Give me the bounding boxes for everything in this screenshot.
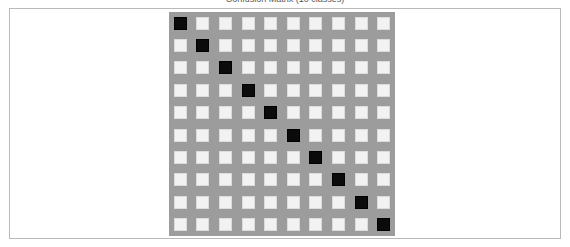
matrix-cell [196,151,209,164]
matrix-cell [242,61,255,74]
figure-caption-clip: Confusion Matrix (10 classes) [0,0,570,6]
matrix-cell [309,129,322,142]
matrix-cell [287,39,300,52]
matrix-cell [309,196,322,209]
matrix-cell [377,173,390,186]
matrix-cell [355,84,368,97]
matrix-cell [174,17,187,30]
matrix-cell [377,218,390,231]
matrix-cell [287,17,300,30]
matrix-cell [219,39,232,52]
matrix-cell [309,17,322,30]
matrix-cell [332,151,345,164]
matrix-cell [219,106,232,119]
matrix-cell [332,218,345,231]
matrix-cell [174,106,187,119]
matrix-cell [287,218,300,231]
matrix-cell [196,218,209,231]
matrix-cell [264,106,277,119]
matrix-cell [355,218,368,231]
matrix-cell [219,84,232,97]
matrix-cell [355,129,368,142]
matrix-cell [264,173,277,186]
matrix-cell [174,218,187,231]
matrix-cell [287,106,300,119]
matrix-cell [242,218,255,231]
matrix-cell [264,218,277,231]
matrix-cell [219,196,232,209]
matrix-cell [264,84,277,97]
matrix-cell [174,61,187,74]
matrix-cell [196,173,209,186]
matrix-cell [287,84,300,97]
matrix-cell [219,173,232,186]
matrix-cell [242,84,255,97]
matrix-cell [242,17,255,30]
matrix-cell [332,106,345,119]
matrix-cell [196,39,209,52]
matrix-cell [196,17,209,30]
matrix-cell [264,39,277,52]
matrix-cell [174,196,187,209]
matrix-cell [332,173,345,186]
matrix-cell [219,151,232,164]
matrix-cell [264,196,277,209]
matrix-cell [309,39,322,52]
matrix-cell [287,61,300,74]
matrix-cell [377,61,390,74]
matrix-cell [309,61,322,74]
matrix-cell [196,196,209,209]
matrix-cell [219,17,232,30]
matrix-cell [309,151,322,164]
matrix-cell [355,106,368,119]
matrix-cell [287,129,300,142]
matrix-cell [174,173,187,186]
matrix-cell [264,17,277,30]
figure-caption: Confusion Matrix (10 classes) [0,0,570,5]
matrix-cell [355,61,368,74]
matrix-cell [264,151,277,164]
matrix-cell [196,106,209,119]
matrix-cell [287,196,300,209]
matrix-cell [242,151,255,164]
matrix-cell [196,61,209,74]
matrix-cell [174,129,187,142]
matrix-cell [355,39,368,52]
matrix-cell [377,39,390,52]
matrix-cell [377,84,390,97]
matrix-cell [309,106,322,119]
matrix-cell [242,173,255,186]
matrix-cell [287,151,300,164]
matrix-cell [332,39,345,52]
matrix-cell [309,218,322,231]
matrix-cell [355,173,368,186]
matrix-cell [219,218,232,231]
matrix-cell [242,196,255,209]
matrix-cell [377,196,390,209]
figure-frame [9,8,561,239]
confusion-matrix-heatmap [169,12,395,236]
matrix-cell [242,129,255,142]
matrix-cell [377,129,390,142]
matrix-cell [287,173,300,186]
matrix-cell [174,151,187,164]
matrix-cell [332,196,345,209]
matrix-cell [196,129,209,142]
matrix-cell [332,61,345,74]
matrix-cell [377,106,390,119]
matrix-cell [309,173,322,186]
matrix-cell [174,39,187,52]
matrix-cell [377,17,390,30]
matrix-cell [377,151,390,164]
matrix-cell [264,61,277,74]
matrix-cell [219,129,232,142]
matrix-cell [355,17,368,30]
matrix-cell [242,39,255,52]
matrix-cell [309,84,322,97]
matrix-cell [332,17,345,30]
matrix-cell [332,84,345,97]
matrix-cell [242,106,255,119]
matrix-cell [196,84,209,97]
matrix-cell [264,129,277,142]
matrix-cell [174,84,187,97]
